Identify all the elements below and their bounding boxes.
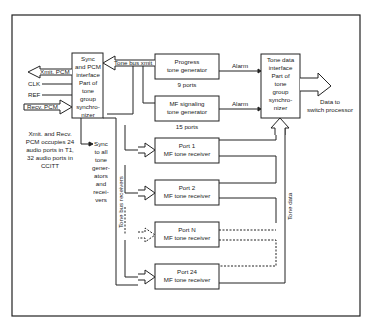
mf-line2: tone generator xyxy=(155,108,219,116)
receiver-type: MF tone receiver xyxy=(155,234,219,242)
output-line1: Data to xyxy=(300,98,360,106)
mf-signaling-generator-label: MF signaling tone generator xyxy=(155,100,219,116)
portN-label: Port N MF tone receiver xyxy=(155,226,219,242)
mf-line1: MF signaling xyxy=(155,100,219,108)
sync-line: tone xyxy=(72,87,104,95)
note-line: Xmit. and Recv. xyxy=(18,130,82,138)
sync-line: nizer xyxy=(72,111,104,119)
tdi-line: synchro- xyxy=(261,96,300,104)
receiver-type: MF tone receiver xyxy=(155,192,219,200)
receiver-type: MF tone receiver xyxy=(155,276,219,284)
port2-label: Port 2 MF tone receiver xyxy=(155,184,219,200)
alarm-label-2: Alarm xyxy=(224,100,256,108)
sync-line: Sync xyxy=(72,55,104,63)
tone-data-label: Tone data xyxy=(286,193,293,220)
progress-generator-label: Progress tone generator xyxy=(155,58,219,74)
receiver-type: MF tone receiver xyxy=(155,150,219,158)
sync-line: Part of xyxy=(72,79,104,87)
note-line: PCM occupies 24 xyxy=(18,138,82,146)
sync-note: Sync to all tone gener- ators and recei-… xyxy=(89,140,113,204)
tdi-line: group xyxy=(261,88,300,96)
tone-data-box-label: Tone data interface Part of tone group s… xyxy=(261,56,300,112)
sync-line: and PCM xyxy=(72,63,104,71)
ref-label: REF xyxy=(28,91,40,99)
progress-ports: 9 ports xyxy=(155,81,219,89)
sync-note-line: gener- xyxy=(89,164,113,172)
mf-signaling-ports: 15 ports xyxy=(155,123,219,131)
tone-bus-receivers-label: Tone bus receivers xyxy=(117,176,124,228)
sync-note-line: tone xyxy=(89,156,113,164)
pcm-note: Xmit. and Recv. PCM occupies 24 audio po… xyxy=(18,130,82,170)
tdi-line: Tone data xyxy=(261,56,300,64)
tone-bus-xmit-label: Tone bus xmit xyxy=(114,59,152,67)
sync-note-line: and xyxy=(89,180,113,188)
note-line: 32 audio ports in xyxy=(18,154,82,162)
sync-note-line: recei- xyxy=(89,188,113,196)
sync-note-line: vers xyxy=(89,196,113,204)
sync-line: synchro- xyxy=(72,103,104,111)
sync-note-line: Sync xyxy=(89,140,113,148)
xmit-pcm-label: Xmit. PCM xyxy=(40,68,70,76)
progress-line1: Progress xyxy=(155,58,219,66)
sync-note-line: to all xyxy=(89,148,113,156)
sync-note-line: ators xyxy=(89,172,113,180)
note-line: audio ports in T1, xyxy=(18,146,82,154)
recv-pcm-label: Recv. PCM xyxy=(27,103,58,111)
output-line2: switch processor xyxy=(300,106,360,114)
tdi-line: tone xyxy=(261,80,300,88)
tdi-line: Part of xyxy=(261,72,300,80)
sync-box-label: Sync and PCM interface Part of tone grou… xyxy=(72,55,104,119)
port24-label: Port 24 MF tone receiver xyxy=(155,268,219,284)
output-label: Data to switch processor xyxy=(300,98,360,114)
progress-line2: tone generator xyxy=(155,66,219,74)
clk-label: CLK xyxy=(28,80,40,88)
alarm-label-1: Alarm xyxy=(224,62,256,70)
receiver-port: Port 24 xyxy=(155,268,219,276)
receiver-port: Port 2 xyxy=(155,184,219,192)
note-line: CCITT xyxy=(18,162,82,170)
receiver-port: Port N xyxy=(155,226,219,234)
tdi-line: nizer xyxy=(261,104,300,112)
tdi-line: interface xyxy=(261,64,300,72)
sync-line: group xyxy=(72,95,104,103)
sync-line: interface xyxy=(72,71,104,79)
receiver-port: Port 1 xyxy=(155,142,219,150)
port1-label: Port 1 MF tone receiver xyxy=(155,142,219,158)
